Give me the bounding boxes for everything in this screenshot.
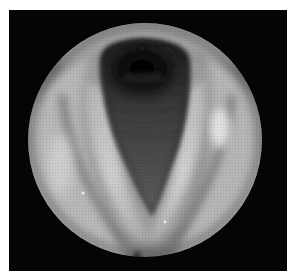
endoscope-field [27, 20, 263, 262]
endoscopy-image: laryngoscopic view of the larynx [0, 0, 292, 278]
larynx-scene [0, 0, 292, 278]
